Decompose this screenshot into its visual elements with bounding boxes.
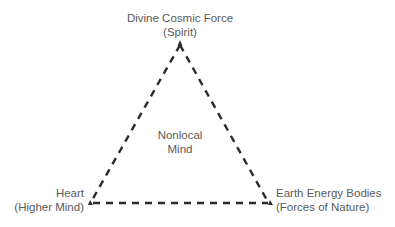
vertex-label-top-line2: (Spirit)	[120, 25, 240, 39]
center-label: Nonlocal Mind	[140, 128, 220, 156]
vertex-label-bottom-left-line1: Heart	[0, 186, 84, 200]
vertex-arrow-top	[178, 40, 183, 46]
vertex-label-bottom-left: Heart (Higher Mind)	[0, 186, 84, 214]
vertex-label-top-line1: Divine Cosmic Force	[120, 11, 240, 25]
vertex-arrow-left	[88, 200, 93, 205]
vertex-label-top: Divine Cosmic Force (Spirit)	[120, 11, 240, 39]
vertex-label-bottom-left-line2: (Higher Mind)	[0, 200, 84, 214]
center-label-line1: Nonlocal	[140, 128, 220, 142]
vertex-label-bottom-right-line2: (Forces of Nature)	[276, 200, 381, 214]
edge-top-left	[91, 45, 180, 202]
vertex-arrow-right	[268, 200, 273, 205]
vertex-label-bottom-right: Earth Energy Bodies (Forces of Nature)	[276, 186, 381, 214]
vertex-label-bottom-right-line1: Earth Energy Bodies	[276, 186, 381, 200]
edge-top-right	[180, 45, 268, 202]
center-label-line2: Mind	[140, 142, 220, 156]
